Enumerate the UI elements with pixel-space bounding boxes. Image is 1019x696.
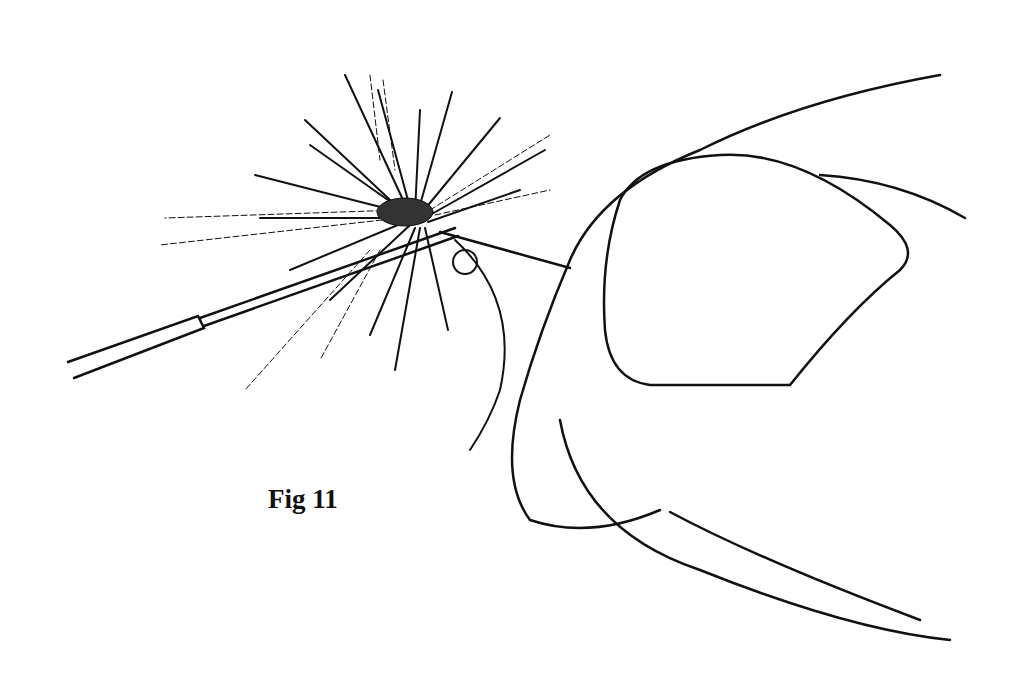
figure-caption: Fig 11 bbox=[268, 484, 338, 515]
illustration bbox=[0, 0, 1019, 696]
bodkin-tool bbox=[68, 228, 458, 378]
hook-eye bbox=[453, 250, 477, 274]
figure-canvas: Fig 11 bbox=[0, 0, 1019, 696]
fingers bbox=[512, 75, 965, 640]
thread-line bbox=[440, 232, 570, 268]
